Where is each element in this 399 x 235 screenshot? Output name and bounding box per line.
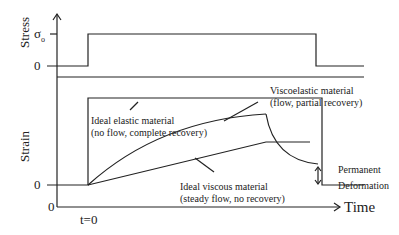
elastic-label: Ideal elastic material — [91, 116, 174, 126]
elastic-sub: (no flow, complete recovery) — [91, 128, 207, 138]
stress-axis-label: Stress — [18, 17, 31, 48]
origin: 0 — [48, 200, 55, 213]
strain-axis-label: Strain — [18, 131, 31, 162]
deformation-label: Deformation — [338, 181, 389, 191]
viscous-label: Ideal viscous material — [180, 182, 268, 192]
viscoelastic-sub: (flow, partial recovery) — [270, 98, 362, 108]
time-axis-label: Time — [344, 200, 375, 215]
viscous-sub: (steady flow, no recovery) — [180, 194, 285, 204]
creep-recovery-diagram: Stress Strain σo 0 0 0 t=0 Time Ideal el… — [0, 0, 399, 235]
viscoelastic-label: Viscoelastic material — [270, 86, 354, 96]
permanent-label: Permanent — [338, 165, 381, 175]
sigma0-label: σo — [34, 27, 45, 44]
t0-label: t=0 — [80, 213, 97, 226]
strain-zero: 0 — [34, 178, 41, 191]
stress-zero: 0 — [34, 59, 41, 72]
